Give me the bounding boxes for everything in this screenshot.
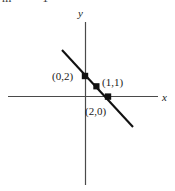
data-point-marker-1-1	[93, 83, 99, 89]
coordinate-plane-figure: m 1 y x (0,2) (1,1) (2,0)	[0, 0, 175, 191]
data-point-marker-2-0	[105, 93, 111, 99]
point-label-0-2: (0,2)	[52, 71, 73, 82]
graph-canvas	[0, 0, 175, 191]
y-axis-label: y	[78, 8, 83, 19]
data-point-marker-0-2	[82, 73, 88, 79]
point-label-2-0: (2,0)	[85, 106, 106, 117]
x-axis-label: x	[162, 92, 167, 103]
point-label-1-1: (1,1)	[102, 77, 123, 88]
